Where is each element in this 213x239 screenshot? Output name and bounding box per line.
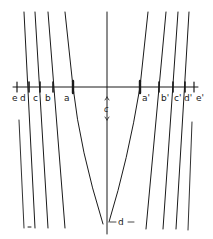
label-b-left: b [45,93,51,103]
line-e-left [19,120,24,228]
line-b-left [48,12,65,228]
label-b-right: b' [161,93,169,103]
line-d-right [176,12,189,229]
label-a-right: a' [142,93,150,103]
curve-a-left [65,12,103,224]
label-c-center: c [104,105,109,114]
label-c-right: c' [174,93,181,103]
label-d-right: d' [184,93,192,103]
line-d-left [24,12,35,228]
label-a-left: a [64,93,70,103]
diagram: e d c b a a' b' c' d' e' c d [0,0,213,239]
line-c-right [163,12,178,229]
line-b-right [146,12,166,229]
label-d-left: d [20,93,26,103]
label-e-right: e' [196,93,204,103]
label-c-left: c [33,93,38,103]
label-e-left: e [12,93,18,103]
label-d-bottom: d [118,217,124,227]
line-c-left [35,12,48,228]
line-e-right [188,122,192,230]
curve-a-right [109,12,148,222]
